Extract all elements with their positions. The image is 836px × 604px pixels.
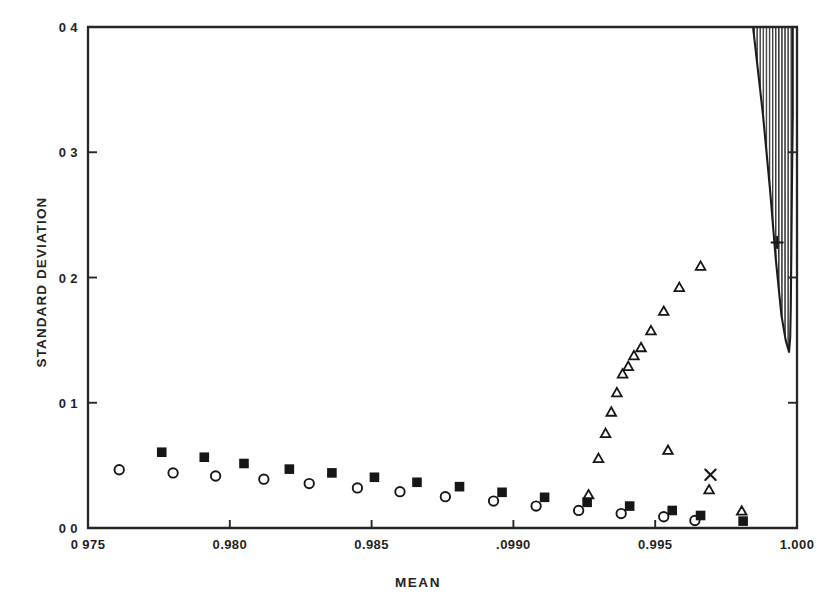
filled-square-marker	[540, 493, 550, 503]
open-circle-marker	[353, 483, 362, 492]
data-markers	[115, 237, 783, 526]
open-circle-marker	[616, 509, 625, 518]
open-triangle-marker	[612, 388, 622, 396]
open-triangle-marker	[623, 362, 633, 370]
open-triangle-marker	[659, 306, 669, 314]
open-circle-marker	[259, 474, 268, 483]
open-triangle-series	[584, 261, 747, 514]
open-triangle-marker	[696, 261, 706, 269]
filled-square-marker	[285, 464, 295, 474]
axis-spines	[88, 27, 797, 528]
open-circle-marker	[489, 496, 498, 505]
open-circle-marker	[211, 471, 220, 480]
open-triangle-marker	[737, 506, 747, 514]
filled-square-marker	[199, 452, 209, 462]
open-circle-marker	[574, 506, 583, 515]
plot-canvas	[0, 0, 836, 604]
filled-square-marker	[667, 506, 677, 516]
open-circle-marker	[690, 516, 699, 525]
open-circle-marker	[659, 512, 668, 521]
open-circle-marker	[115, 465, 124, 474]
hatched-funnel-region	[753, 27, 793, 352]
open-circle-marker	[305, 479, 314, 488]
filled-square-marker	[157, 447, 167, 457]
filled-square-marker	[239, 459, 249, 469]
filled-square-marker	[497, 488, 507, 498]
open-triangle-marker	[646, 326, 656, 334]
open-triangle-marker	[704, 485, 714, 493]
open-circle-marker	[395, 487, 404, 496]
filled-square-marker	[625, 501, 635, 511]
open-circle-marker	[441, 492, 450, 501]
open-triangle-marker	[594, 454, 604, 462]
open-triangle-marker	[584, 490, 594, 498]
filled-square-marker	[738, 516, 748, 526]
filled-square-marker	[455, 482, 465, 492]
open-circle-series	[115, 465, 700, 525]
open-triangle-marker	[629, 351, 639, 359]
open-triangle-marker	[663, 445, 673, 453]
open-triangle-marker	[601, 429, 611, 437]
axis-frame	[88, 27, 797, 528]
funnel-outline	[753, 27, 793, 352]
open-circle-marker	[531, 501, 540, 510]
chart-figure: STANDARD DEVIATION MEAN 0 9750.9800.985.…	[0, 0, 836, 604]
filled-square-marker	[412, 477, 422, 487]
open-circle-marker	[168, 468, 177, 477]
cross-marker-series	[705, 470, 715, 480]
open-triangle-marker	[675, 283, 685, 291]
open-triangle-marker	[606, 407, 616, 415]
open-triangle-marker	[636, 343, 646, 351]
axis-tickmarks	[88, 152, 797, 528]
filled-square-marker	[327, 468, 337, 478]
filled-square-marker	[370, 472, 380, 482]
x-cross-marker	[705, 470, 715, 480]
